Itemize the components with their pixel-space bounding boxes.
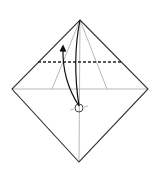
origami-diagram (0, 0, 158, 170)
reference-point-tick-right (84, 106, 88, 107)
reference-point-tick-left (70, 109, 74, 110)
diagram-canvas (0, 0, 158, 170)
crease-lines (12, 20, 148, 162)
vertical-crease (79, 20, 80, 162)
right-diagonal-crease (80, 20, 107, 89)
